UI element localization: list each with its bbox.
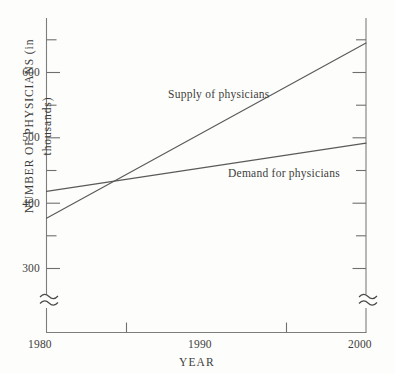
axis-break-left-icon <box>40 294 58 305</box>
axis-break-right-icon <box>359 294 377 305</box>
x-tick-label-1990: 1990 <box>188 338 212 350</box>
x-tick-label-2000: 2000 <box>348 338 372 350</box>
y-axis-title: NUMBER OF PHYSICIANS (in thousands) <box>23 39 53 214</box>
chart-plot-area <box>0 0 395 374</box>
y-axis-title-wrapper: NUMBER OF PHYSICIANS (in thousands) <box>19 11 55 241</box>
y-tick-label-300: 300 <box>10 262 40 274</box>
series-label-demand: Demand for physicians <box>228 167 340 179</box>
series-label-supply: Supply of physicians <box>168 88 269 100</box>
physician-supply-demand-chart: 600 500 400 300 1980 1990 2000 YEAR NUMB… <box>0 0 395 374</box>
x-axis-title: YEAR <box>179 356 215 368</box>
series-line-supply <box>47 43 367 218</box>
x-tick-label-1980: 1980 <box>28 338 52 350</box>
